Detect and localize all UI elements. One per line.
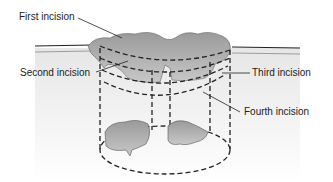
label-first-incision: First incision <box>19 11 75 23</box>
label-fourth-incision: Fourth incision <box>244 106 309 118</box>
excision-diagram <box>0 0 333 182</box>
label-second-incision: Second incision <box>20 67 90 79</box>
label-third-incision: Third incision <box>252 67 311 79</box>
